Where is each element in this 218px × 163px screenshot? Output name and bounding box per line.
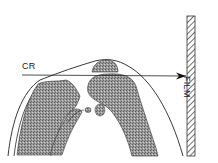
central-ray-label: CR	[22, 61, 36, 71]
central-ray-line	[22, 75, 186, 76]
sesamoid-medium	[95, 104, 105, 116]
patella	[92, 60, 118, 72]
sesamoid-small	[85, 108, 91, 113]
film-label: FILM	[182, 76, 192, 98]
